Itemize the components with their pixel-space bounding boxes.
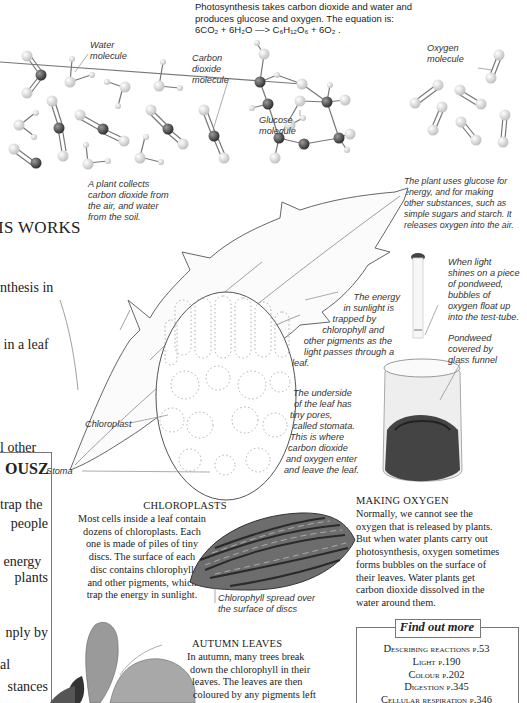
body-line: leaves. The leaves are then (192, 676, 365, 689)
body-line: their leaves. Water plants get (356, 572, 526, 585)
link-colour[interactable]: Colour p.202 (356, 669, 517, 682)
link-describing-reactions[interactable]: Describing reactions p.53 (356, 643, 517, 656)
find-out-more-links: Describing reactions p.53 Light p.190 Co… (356, 643, 517, 703)
autumn-leaves-heading: AUTUMN LEAVES (192, 638, 282, 649)
body-line: coloured by any pigments left (193, 689, 365, 702)
body-line: down the chlorophyll in their (190, 664, 365, 677)
body-line: water around them. (356, 597, 526, 610)
find-out-more-title: Find out more (395, 619, 479, 636)
link-cellular-respiration[interactable]: Cellular respiration p.346 (356, 694, 517, 703)
body-line: Normally, we cannot see the (356, 508, 526, 521)
making-oxygen-body: Normally, we cannot see the oxygen that … (356, 508, 526, 610)
body-line: carbon dioxide dissolved in the (356, 584, 526, 597)
body-line: In autumn, many trees break (187, 651, 365, 664)
body-line: But when water plants carry out (356, 533, 526, 546)
body-line: oxygen that is released by plants. (356, 521, 526, 534)
link-light[interactable]: Light p.190 (356, 656, 517, 669)
link-digestion[interactable]: Digestion p.345 (356, 681, 517, 694)
making-oxygen-heading: MAKING OXYGEN (356, 495, 449, 506)
body-line: forms bubbles on the surface of (356, 559, 526, 572)
body-line: photosynthesis, oxygen sometimes (356, 546, 526, 559)
autumn-leaves-body: In autumn, many trees break down the chl… (180, 651, 365, 703)
